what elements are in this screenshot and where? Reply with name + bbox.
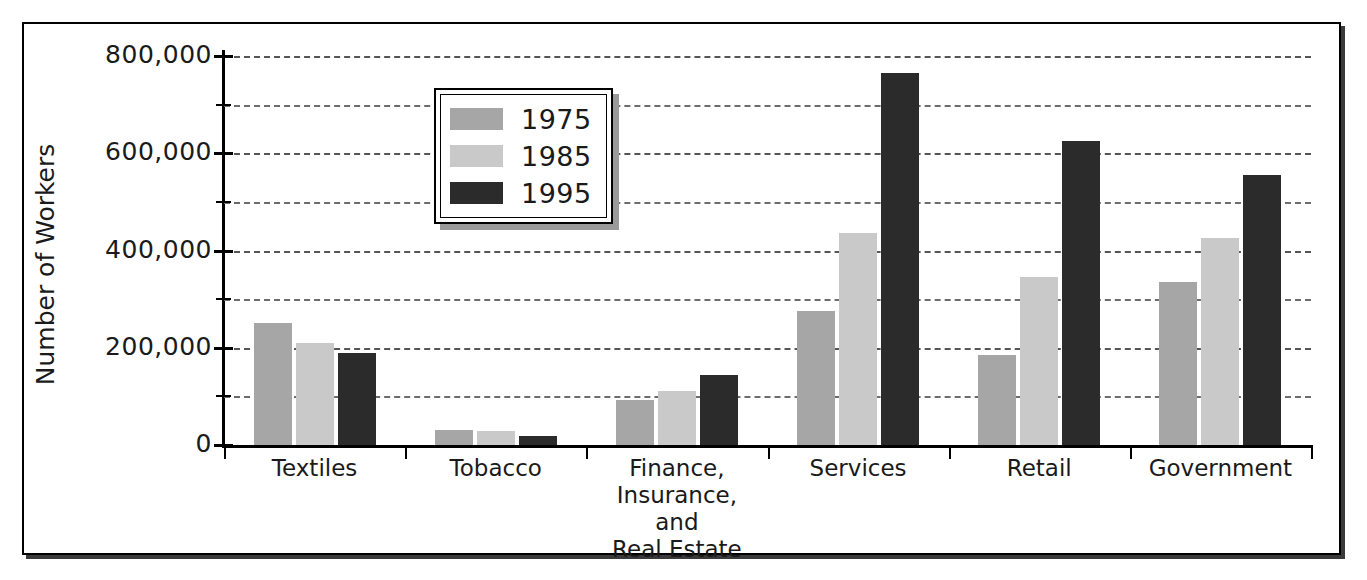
y-axis-minor-tick xyxy=(216,201,231,203)
y-axis-tick xyxy=(214,347,233,350)
bar-1995-government xyxy=(1243,175,1281,445)
y-axis-tick xyxy=(214,444,233,447)
gridline xyxy=(224,299,1311,301)
bar-1995-textiles xyxy=(338,353,376,445)
gridline xyxy=(224,56,1311,58)
x-axis-label-line: Government xyxy=(1130,455,1311,482)
gridline xyxy=(224,105,1311,107)
x-axis-label-line: Tobacco xyxy=(405,455,586,482)
x-axis-category-label: Tobacco xyxy=(405,455,586,482)
x-axis-label-line: and xyxy=(586,509,767,536)
y-axis-tick xyxy=(214,152,233,155)
x-axis-end-tick xyxy=(224,448,226,459)
gridline xyxy=(224,251,1311,253)
gridline xyxy=(224,202,1311,204)
y-axis-minor-tick xyxy=(216,298,231,300)
chart-figure: Number of Workers 0200,000400,000600,000… xyxy=(0,0,1367,580)
x-axis-label-line: Real Estate xyxy=(586,536,767,563)
bar-1975-textiles xyxy=(254,323,292,445)
y-axis-tick-label: 0 xyxy=(62,429,212,458)
bar-1985-government xyxy=(1201,238,1239,445)
y-axis-tick xyxy=(214,55,233,58)
y-axis-tick-labels: 0200,000400,000600,000800,000 xyxy=(52,0,212,580)
y-axis-tick-label: 600,000 xyxy=(62,137,212,166)
bar-1985-retail xyxy=(1020,277,1058,445)
bar-1995-retail xyxy=(1062,141,1100,445)
bar-1975-services xyxy=(797,311,835,445)
x-axis-category-label: Finance,Insurance,andReal Estate xyxy=(586,455,767,563)
x-axis-label-line: Retail xyxy=(949,455,1130,482)
bar-1985-services xyxy=(839,233,877,445)
x-axis-label-line: Services xyxy=(768,455,949,482)
legend-label-1995: 1995 xyxy=(521,178,592,209)
x-axis-category-label: Services xyxy=(768,455,949,482)
legend-item-1975[interactable]: 1975 xyxy=(450,104,602,134)
legend-item-1995[interactable]: 1995 xyxy=(450,178,602,208)
x-axis-category-label: Retail xyxy=(949,455,1130,482)
bar-1985-textiles xyxy=(296,343,334,445)
plot-area xyxy=(224,56,1311,445)
bar-1995-services xyxy=(881,73,919,445)
legend-swatch-1995 xyxy=(450,182,503,204)
legend-item-1985[interactable]: 1985 xyxy=(450,141,602,171)
chart-legend[interactable]: 197519851995 xyxy=(434,88,613,224)
legend-swatch-1985 xyxy=(450,145,503,167)
legend-label-1985: 1985 xyxy=(521,141,592,172)
x-axis-category-label: Government xyxy=(1130,455,1311,482)
bar-1995-finance xyxy=(700,375,738,445)
x-axis-label-line: Insurance, xyxy=(586,482,767,509)
bar-1975-government xyxy=(1159,282,1197,445)
bar-1985-tobacco xyxy=(477,431,515,445)
y-axis-tick-label: 800,000 xyxy=(62,40,212,69)
y-axis-tick xyxy=(214,250,233,253)
bar-1995-tobacco xyxy=(519,436,557,445)
legend-label-1975: 1975 xyxy=(521,104,592,135)
x-axis-label-line: Textiles xyxy=(224,455,405,482)
x-axis-end-tick xyxy=(1311,448,1313,459)
x-axis-category-label: Textiles xyxy=(224,455,405,482)
gridline xyxy=(224,153,1311,155)
bar-1975-retail xyxy=(978,355,1016,445)
y-axis-tick-label: 400,000 xyxy=(62,235,212,264)
bar-1985-finance xyxy=(658,391,696,445)
bar-1975-tobacco xyxy=(435,430,473,445)
y-axis-tick-label: 200,000 xyxy=(62,332,212,361)
y-axis-minor-tick xyxy=(216,104,231,106)
gridline xyxy=(224,396,1311,398)
legend-swatch-1975 xyxy=(450,108,503,130)
y-axis-minor-tick xyxy=(216,395,231,397)
gridline xyxy=(224,348,1311,350)
bar-1975-finance xyxy=(616,400,654,445)
x-axis-label-line: Finance, xyxy=(586,455,767,482)
